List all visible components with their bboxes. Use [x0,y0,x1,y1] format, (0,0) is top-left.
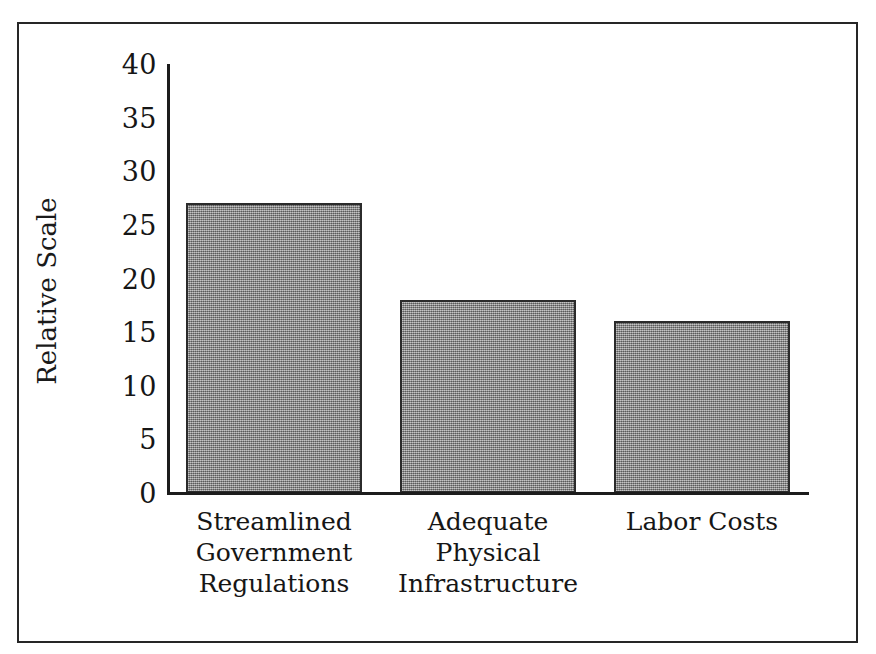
x-category-label-2: Labor Costs [592,506,812,537]
x-category-label-1-line-1: Physical [378,537,598,568]
x-axis-line [167,492,809,495]
x-category-label-0-line-0: Streamlined [164,506,384,537]
y-tick-label-15: 15 [97,319,157,346]
x-category-label-0-line-1: Government [164,537,384,568]
y-tick-label-10: 10 [97,373,157,400]
plot-area: Relative Scale 40 35 30 25 20 15 10 5 0 … [0,0,876,654]
x-category-label-0: Streamlined Government Regulations [164,506,384,599]
y-axis-title: Relative Scale [34,181,60,401]
y-tick-label-40: 40 [97,51,157,78]
y-tick-label-0: 0 [97,480,157,507]
y-tick-label-5: 5 [97,426,157,453]
x-category-label-2-line-0: Labor Costs [592,506,812,537]
y-tick-label-35: 35 [97,105,157,132]
x-category-label-1-line-2: Infrastructure [378,568,598,599]
y-axis-line [167,64,170,495]
figure-root: Relative Scale 40 35 30 25 20 15 10 5 0 … [0,0,876,654]
y-tick-label-20: 20 [97,266,157,293]
y-axis-tick-labels: 40 35 30 25 20 15 10 5 0 [95,0,157,654]
y-tick-label-30: 30 [97,158,157,185]
bar-streamlined-government-regulations [186,203,362,493]
bar-adequate-physical-infrastructure [400,300,576,493]
y-tick-label-25: 25 [97,212,157,239]
x-category-label-1: Adequate Physical Infrastructure [378,506,598,599]
bar-labor-costs [614,321,790,493]
x-category-label-1-line-0: Adequate [378,506,598,537]
x-category-label-0-line-2: Regulations [164,568,384,599]
